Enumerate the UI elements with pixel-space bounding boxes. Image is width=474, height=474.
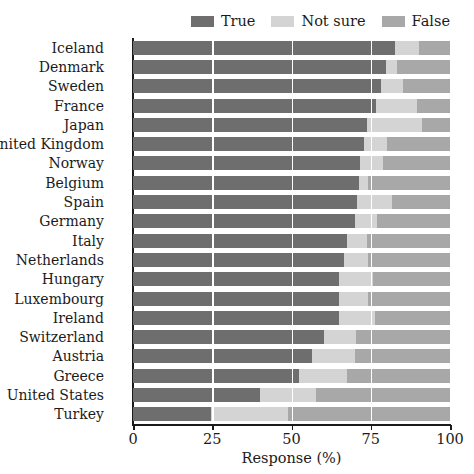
y-tick-label: Switzerland	[0, 330, 104, 344]
y-tick-label: Luxembourg	[0, 292, 104, 306]
bar-segment-true[interactable]	[133, 60, 386, 74]
bar-segment-not-sure[interactable]	[312, 349, 355, 363]
bar-segment-true[interactable]	[133, 195, 357, 209]
y-tick-label: United States	[0, 388, 104, 402]
bar-segment-false[interactable]	[387, 137, 450, 151]
legend-label: False	[412, 14, 450, 29]
bar-segment-false[interactable]	[422, 118, 450, 132]
bar-segment-false[interactable]	[417, 99, 450, 113]
bar-segment-false[interactable]	[392, 195, 450, 209]
bar-segment-false[interactable]	[377, 214, 450, 228]
bar-segment-not-sure[interactable]	[381, 79, 404, 93]
bar-segment-true[interactable]	[133, 234, 347, 248]
bar-segment-true[interactable]	[133, 214, 355, 228]
bar-segment-not-sure[interactable]	[339, 311, 375, 325]
legend-entry[interactable]: Not sure	[271, 14, 365, 29]
y-tick-label: Greece	[0, 369, 104, 383]
x-tick-mark	[212, 425, 214, 430]
bar-segment-not-sure[interactable]	[339, 292, 368, 306]
y-tick-label: Hungary	[0, 272, 104, 286]
y-tick-label: Austria	[0, 349, 104, 363]
bar-segment-not-sure[interactable]	[324, 330, 357, 344]
y-tick-label: United Kingdom	[0, 137, 104, 151]
bar-segment-false[interactable]	[316, 388, 450, 402]
x-tick-mark	[450, 425, 452, 430]
bar-segment-true[interactable]	[133, 349, 312, 363]
y-tick-label: Netherlands	[0, 253, 104, 267]
y-tick-label: Italy	[0, 234, 104, 248]
bar-segment-false[interactable]	[368, 253, 450, 267]
bar-segment-not-sure[interactable]	[211, 407, 288, 421]
chart-legend: TrueNot sureFalse	[0, 11, 474, 31]
x-axis-label: Response (%)	[133, 450, 450, 466]
bar-segment-not-sure[interactable]	[355, 214, 377, 228]
bar-segment-true[interactable]	[133, 272, 339, 286]
y-tick-label: Turkey	[0, 407, 104, 421]
x-tick-label: 25	[203, 431, 221, 447]
bar-segment-true[interactable]	[133, 79, 381, 93]
bar-segment-true[interactable]	[133, 176, 359, 190]
gridline	[292, 38, 293, 424]
bar-segment-false[interactable]	[383, 156, 450, 170]
bar-segment-not-sure[interactable]	[357, 195, 392, 209]
bar-segment-false[interactable]	[403, 79, 450, 93]
bar-segment-not-sure[interactable]	[339, 272, 373, 286]
y-tick-label: Belgium	[0, 176, 104, 190]
y-tick-label: Japan	[0, 118, 104, 132]
x-tick-label: 100	[436, 431, 464, 447]
bar-segment-true[interactable]	[133, 253, 344, 267]
swatch-icon	[191, 16, 214, 27]
y-tick-label: Norway	[0, 156, 104, 170]
bar-segment-not-sure[interactable]	[347, 234, 367, 248]
bar-segment-false[interactable]	[375, 311, 450, 325]
bar-segment-true[interactable]	[133, 41, 395, 55]
bar-segment-true[interactable]	[133, 292, 339, 306]
plot-area: IcelandDenmarkSwedenFranceJapanUnited Ki…	[133, 38, 450, 424]
bar-segment-not-sure[interactable]	[364, 137, 387, 151]
bar-segment-not-sure[interactable]	[299, 369, 347, 383]
bar-segment-not-sure[interactable]	[376, 99, 417, 113]
y-tick-label: Sweden	[0, 79, 104, 93]
bar-segment-not-sure[interactable]	[386, 60, 397, 74]
bar-segment-not-sure[interactable]	[344, 253, 368, 267]
bar-segment-not-sure[interactable]	[395, 41, 419, 55]
bar-segment-false[interactable]	[355, 349, 450, 363]
bar-segment-not-sure[interactable]	[359, 176, 368, 190]
bar-segment-true[interactable]	[133, 330, 324, 344]
bar-segment-true[interactable]	[133, 407, 211, 421]
bar-segment-true[interactable]	[133, 118, 367, 132]
swatch-icon	[382, 16, 405, 27]
bar-segment-not-sure[interactable]	[367, 118, 422, 132]
y-tick-label: Spain	[0, 195, 104, 209]
legend-entry[interactable]: True	[191, 14, 256, 29]
bar-segment-not-sure[interactable]	[260, 388, 316, 402]
bar-segment-false[interactable]	[368, 292, 450, 306]
bar-segment-true[interactable]	[133, 311, 339, 325]
swatch-icon	[271, 16, 294, 27]
x-tick-label: 0	[128, 431, 137, 447]
bar-segment-true[interactable]	[133, 388, 260, 402]
bar-segment-false[interactable]	[288, 407, 450, 421]
y-tick-label: Germany	[0, 214, 104, 228]
bar-segment-false[interactable]	[419, 41, 450, 55]
legend-label: Not sure	[301, 14, 365, 29]
bar-segment-false[interactable]	[347, 369, 450, 383]
bar-segment-true[interactable]	[133, 99, 376, 113]
x-tick-label: 75	[362, 431, 380, 447]
legend-entry[interactable]: False	[382, 14, 450, 29]
gridline	[371, 38, 372, 424]
stacked-bar-chart: TrueNot sureFalse 0255075100 Response (%…	[0, 0, 474, 474]
x-tick-mark	[371, 425, 373, 430]
bar-segment-true[interactable]	[133, 156, 360, 170]
y-tick-label: Iceland	[0, 41, 104, 55]
bar-segment-true[interactable]	[133, 369, 299, 383]
bar-segment-false[interactable]	[367, 234, 450, 248]
bar-segment-false[interactable]	[397, 60, 450, 74]
x-tick-mark	[292, 425, 294, 430]
bar-segment-false[interactable]	[368, 176, 450, 190]
x-tick-mark	[133, 425, 135, 430]
legend-label: True	[221, 14, 256, 29]
x-tick-label: 50	[282, 431, 300, 447]
bar-segment-true[interactable]	[133, 137, 364, 151]
bar-segment-false[interactable]	[373, 272, 450, 286]
